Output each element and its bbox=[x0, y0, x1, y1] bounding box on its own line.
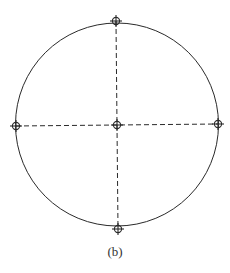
figure-caption: (b) bbox=[0, 244, 230, 260]
crosshair-marker-bottom-icon bbox=[112, 223, 124, 235]
crosshair-marker-right-icon bbox=[212, 118, 224, 130]
crosshair-marker-center-icon bbox=[111, 119, 123, 131]
crosshair-marker-left-icon bbox=[10, 120, 22, 132]
circle-diagram bbox=[0, 0, 230, 273]
crosshair-marker-top-icon bbox=[110, 15, 122, 27]
markers-group bbox=[10, 15, 224, 235]
